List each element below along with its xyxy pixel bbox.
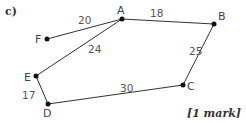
- edge-ed: [36, 76, 48, 104]
- question-part-label: c): [5, 5, 17, 18]
- edge-weight-label: 25: [189, 45, 202, 57]
- node-label: D: [43, 107, 51, 120]
- nodes: ABCDEF: [24, 4, 226, 120]
- edge-weight-label: 20: [78, 14, 91, 26]
- node-b-dot: [212, 22, 217, 27]
- node-label: E: [24, 71, 31, 84]
- edge-weight-label: 18: [150, 7, 163, 19]
- marks-label: [1 mark]: [187, 107, 241, 120]
- node-d-dot: [46, 102, 51, 107]
- node-a-dot: [120, 17, 125, 22]
- node-label: A: [117, 4, 125, 17]
- edge-ae: [36, 19, 122, 76]
- node-label: B: [218, 10, 226, 23]
- node-label: C: [187, 80, 195, 93]
- edge-cd: [48, 85, 183, 104]
- edge-ab: [122, 19, 214, 24]
- edge-weight-label: 24: [88, 43, 102, 55]
- node-label: F: [35, 33, 41, 46]
- edge-weight-label: 30: [120, 82, 133, 94]
- edge-weight-label: 17: [22, 89, 35, 101]
- node-c-dot: [181, 83, 186, 88]
- network-diagram: c) 201824253017 ABCDEF [1 mark]: [0, 0, 246, 123]
- node-e-dot: [34, 74, 39, 79]
- node-f-dot: [45, 37, 50, 42]
